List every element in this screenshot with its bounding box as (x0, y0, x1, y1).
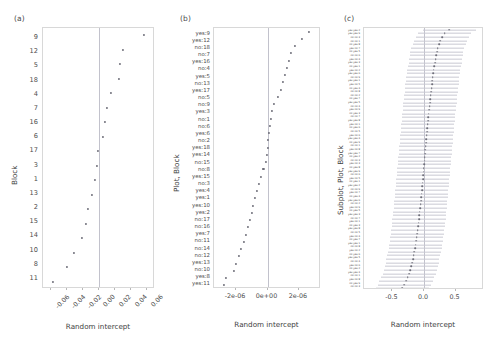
data-point (433, 73, 435, 75)
data-point (414, 247, 416, 249)
y-tick-label: yes:no:4 (349, 234, 360, 237)
data-point (52, 281, 54, 283)
data-point (434, 62, 436, 64)
data-point (428, 109, 430, 111)
y-tick-label: no:1 (198, 116, 210, 122)
data-point (422, 175, 424, 177)
y-tick-label: yes:no:7 (349, 191, 360, 194)
y-tick-label: yes:6 (195, 130, 210, 136)
data-point (249, 219, 251, 221)
data-point (262, 168, 264, 170)
data-point (423, 164, 425, 166)
data-point (442, 36, 444, 38)
y-tick-label: yes:no:4 (349, 57, 360, 60)
x-tick-label: 2e-06 (289, 292, 307, 300)
x-tick-label: 0.04 (133, 293, 149, 309)
y-tick-label: no:no:7 (350, 115, 360, 118)
data-point (444, 33, 446, 35)
data-point (433, 69, 435, 71)
y-tick-label: yes:yes:2 (348, 28, 360, 31)
y-tick-label: yes:9 (195, 30, 210, 36)
y-tick-label: no:no:2 (350, 93, 360, 96)
data-point (438, 44, 440, 46)
data-point (411, 262, 413, 264)
x-tick-label: 0.5 (449, 293, 459, 301)
x-tick-label: 0.0 (418, 293, 428, 301)
y-tick-label: no:no:9 (350, 187, 360, 190)
x-tick-label: -2e-06 (225, 292, 246, 300)
y-tick-label: no:7 (198, 51, 210, 57)
panel-b-letter: (b) (180, 14, 191, 23)
y-tick-label: yes:1 (195, 194, 210, 200)
x-tick-mark (455, 289, 456, 291)
y-tick-label: no:yes:3 (349, 223, 360, 226)
y-tick-label: yes:14 (192, 151, 210, 157)
y-tick-label: yes:no:2 (349, 249, 360, 252)
panel-a-y-axis-title: Block (10, 166, 19, 185)
data-point (410, 266, 412, 268)
data-point (104, 121, 106, 123)
y-tick-label: 2 (34, 203, 38, 211)
y-tick-label: yes:10 (192, 202, 210, 208)
panel-a-letter: (a) (14, 14, 25, 23)
data-point (429, 102, 431, 104)
y-tick-label: no:yes:5 (349, 209, 360, 212)
panel-a-plot-area (42, 27, 154, 288)
y-tick-label: yes:yes:5 (348, 256, 360, 259)
data-point (427, 127, 429, 129)
y-tick-label: no:yes:8 (349, 43, 360, 46)
y-tick-label: 1 (34, 175, 38, 183)
data-point (294, 45, 296, 47)
data-point (269, 125, 271, 127)
data-point (416, 236, 418, 238)
data-point (290, 52, 292, 54)
data-point (422, 178, 424, 180)
x-tick-mark (82, 288, 83, 290)
panel-a: (a) 912518471661731132151410811 Block -0… (0, 0, 166, 343)
y-tick-label: yes:no:5 (349, 176, 360, 179)
y-tick-label: no:no:1 (350, 39, 360, 42)
data-point (421, 196, 423, 198)
y-tick-label: yes:yes:3 (348, 61, 360, 64)
data-point (425, 145, 427, 147)
data-point (122, 49, 124, 51)
y-tick-label: 3 (34, 161, 38, 169)
y-tick-label: yes:yes:2 (348, 184, 360, 187)
y-tick-label: no:no:4 (350, 104, 360, 107)
data-point (430, 91, 432, 93)
data-point (94, 179, 96, 181)
data-point (412, 258, 414, 260)
panel-b: (b) yes:9yes:12no:18no:7yes:16no:4yes:5n… (166, 0, 332, 343)
y-tick-label: yes:8 (195, 273, 210, 279)
data-point (418, 218, 420, 220)
panel-a-x-axis-title: Random intercept (42, 322, 154, 331)
panel-a-y-tick-labels: 912518471661731132151410811 (8, 30, 38, 285)
data-point (301, 38, 303, 40)
panel-c-plot-area (363, 27, 483, 289)
data-point (426, 135, 428, 137)
y-tick-label: 17 (30, 146, 38, 154)
y-tick-label: no:14 (195, 245, 210, 251)
y-tick-label: no:4 (198, 65, 210, 71)
data-point (407, 276, 409, 278)
panel-b-y-axis-title: Plot, Block (172, 154, 181, 192)
y-tick-label: 16 (30, 118, 38, 126)
data-point (251, 212, 253, 214)
x-tick-mark (423, 289, 424, 291)
y-tick-label: yes:yes:1 (348, 79, 360, 82)
data-point (225, 277, 227, 279)
y-tick-label: no:no:8 (350, 90, 360, 93)
data-point (434, 65, 436, 67)
y-tick-label: no:no:3 (350, 36, 360, 39)
data-point (432, 76, 434, 78)
y-tick-label: 4 (34, 90, 38, 98)
data-point (271, 110, 273, 112)
x-tick-label: -0.5 (385, 293, 397, 301)
data-point (280, 89, 282, 91)
x-tick-mark (98, 288, 99, 290)
y-tick-label: no:yes:7 (349, 238, 360, 241)
y-tick-label: yes:no:8 (349, 147, 360, 150)
data-point (424, 160, 426, 162)
y-tick-label: yes:7 (195, 230, 210, 236)
y-tick-label: 12 (30, 47, 38, 55)
